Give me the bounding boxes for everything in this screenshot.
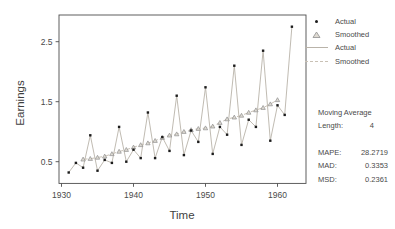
smoothed-line	[83, 100, 277, 159]
actual-point-marker	[82, 167, 84, 169]
dashed-line-icon	[305, 61, 328, 62]
stat-label: MAD:	[318, 159, 337, 172]
actual-point-marker	[75, 162, 77, 164]
actual-point-marker	[176, 95, 178, 97]
smoothed-point-marker	[268, 102, 272, 106]
legend-label: Actual	[335, 17, 356, 26]
stat-msd-row: MSD: 0.2361	[318, 173, 388, 186]
y-tick-label: 0.5	[41, 157, 53, 167]
stat-value: 4	[370, 119, 374, 132]
actual-line	[69, 27, 292, 173]
stat-value: 28.2719	[361, 146, 388, 159]
actual-point-marker	[240, 144, 242, 146]
smoothed-point-marker	[218, 121, 222, 125]
y-tick-label: 1.5	[41, 97, 53, 107]
triangle-marker-icon	[312, 31, 321, 39]
actual-point-marker	[111, 162, 113, 164]
actual-point-marker	[147, 111, 149, 113]
actual-point-marker	[89, 134, 91, 136]
actual-point-marker	[255, 126, 257, 128]
actual-point-marker	[168, 150, 170, 152]
stat-label: MAPE:	[318, 146, 341, 159]
actual-point-marker	[269, 140, 271, 142]
actual-point-marker	[161, 136, 163, 138]
moving-average-plot-window: 19301940195019600.51.52.5 Earnings Time …	[0, 0, 395, 229]
actual-point-marker	[204, 86, 206, 88]
actual-point-marker	[291, 26, 293, 28]
y-axis-title: Earnings	[14, 80, 26, 126]
actual-point-marker	[68, 171, 70, 173]
legend-item-actual-line: Actual	[303, 41, 369, 54]
legend-label: Actual	[335, 43, 356, 52]
actual-point-marker	[212, 153, 214, 155]
legend-label: Smoothed	[335, 30, 369, 39]
smoothed-point-marker	[247, 110, 251, 114]
stats-title: Moving Average	[318, 106, 388, 119]
actual-point-marker	[226, 134, 228, 136]
stat-value: 0.3353	[365, 159, 388, 172]
x-tick-label: 1940	[124, 190, 143, 200]
actual-point-marker	[125, 161, 127, 163]
x-tick-label: 1960	[268, 190, 287, 200]
actual-point-marker	[197, 141, 199, 143]
smoothed-point-marker	[261, 106, 265, 110]
actual-point-marker	[96, 170, 98, 172]
actual-point-marker	[118, 126, 120, 128]
stat-mape-row: MAPE: 28.2719	[318, 146, 388, 159]
actual-point-marker	[233, 65, 235, 67]
solid-line-icon	[305, 47, 328, 48]
legend: Actual Smoothed Actual Smoothed	[303, 15, 369, 68]
smoothed-point-marker	[239, 113, 243, 117]
actual-point-marker	[140, 157, 142, 159]
stat-length-row: Length: 4	[318, 119, 374, 132]
smoothed-point-marker	[275, 98, 279, 102]
actual-point-marker	[183, 154, 185, 156]
actual-point-marker	[104, 159, 106, 161]
point-marker-icon	[315, 20, 318, 23]
legend-item-smoothed-points: Smoothed	[303, 28, 369, 41]
x-tick-label: 1930	[52, 190, 71, 200]
y-tick-label: 2.5	[41, 37, 53, 47]
actual-point-marker	[132, 149, 134, 151]
legend-item-actual-points: Actual	[303, 15, 369, 28]
actual-point-marker	[276, 104, 278, 106]
actual-point-marker	[190, 129, 192, 131]
x-tick-label: 1950	[196, 190, 215, 200]
moving-average-stats-panel: Moving Average Length: 4 MAPE: 28.2719 M…	[318, 106, 388, 186]
stats-divider-space	[318, 133, 388, 146]
stat-value: 0.2361	[365, 173, 388, 186]
x-axis-title: Time	[169, 209, 194, 221]
actual-point-marker	[219, 126, 221, 128]
actual-point-marker	[262, 50, 264, 52]
stat-mad-row: MAD: 0.3353	[318, 159, 388, 172]
plot-area: 19301940195019600.51.52.5	[41, 15, 306, 200]
smoothed-point-marker	[232, 115, 236, 119]
legend-item-smoothed-line: Smoothed	[303, 55, 369, 68]
stat-label: MSD:	[318, 173, 337, 186]
legend-label: Smoothed	[335, 57, 369, 66]
actual-point-marker	[248, 119, 250, 121]
stat-label: Length:	[318, 119, 343, 132]
actual-point-marker	[284, 114, 286, 116]
actual-point-marker	[154, 157, 156, 159]
